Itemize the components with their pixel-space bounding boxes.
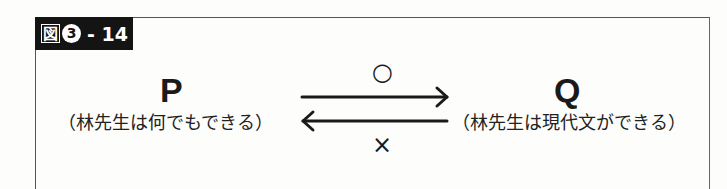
backward-false-symbol: ×	[372, 133, 392, 157]
node-q-letter: Q	[554, 73, 580, 107]
figure-kanji: 図	[41, 24, 60, 43]
implication-arrows	[295, 85, 455, 135]
figure-label: 図 3 - 14	[35, 17, 133, 50]
node-q-description: （林先生は現代文ができる）	[452, 108, 686, 134]
figure-chapter-number: 3	[62, 24, 81, 43]
node-p-letter: P	[160, 73, 183, 107]
left-arrow-icon	[303, 112, 447, 130]
figure-number: - 14	[87, 23, 128, 45]
right-arrow-icon	[302, 88, 447, 106]
forward-true-symbol: ○	[372, 60, 393, 84]
node-p-description: （林先生は何でもできる）	[58, 108, 273, 134]
